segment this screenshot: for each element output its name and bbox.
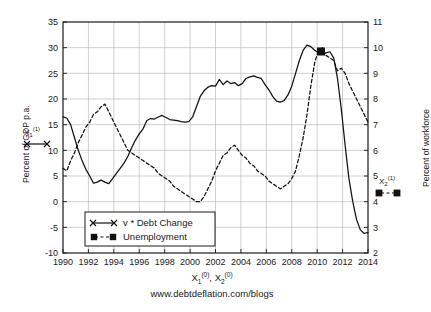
y-axis-left-tick-label: 15 (48, 120, 58, 130)
x-axis-tick-label: 1994 (104, 257, 124, 267)
x-axis-tick-label: 2012 (333, 257, 353, 267)
x-axis-tick-label: 1996 (129, 257, 149, 267)
y-axis-right-tick-label: 10 (373, 43, 383, 53)
x-axis-tick-label: 1990 (53, 257, 73, 267)
x-axis-tick-label: 2014 (358, 257, 378, 267)
y-axis-right-tick-label: 11 (373, 17, 382, 27)
y-axis-left-tick-label: 25 (48, 69, 58, 79)
x-axis-tick-label: 1992 (78, 257, 98, 267)
y-axis-right-tick-label: 9 (373, 69, 378, 79)
y-axis-right-tick-label: 6 (373, 146, 378, 156)
y-axis-left-tick-label: 30 (48, 43, 58, 53)
legend-marker-square-icon (91, 234, 97, 240)
y-axis-left-tick-label: -5 (50, 223, 58, 233)
legend-marker-square-icon (110, 234, 116, 240)
x-axis-tick-label: 2002 (205, 257, 225, 267)
y-axis-right-tick-label: 4 (373, 197, 378, 207)
y-axis-right-tick-label: 8 (373, 94, 378, 104)
x-axis-tick-label: 2008 (282, 257, 302, 267)
x-axis-tick-label: 2006 (256, 257, 276, 267)
y-axis-left-tick-label: 35 (48, 17, 58, 27)
right-series-marker-square-icon (376, 190, 383, 197)
x-axis-tick-label: 2000 (180, 257, 200, 267)
legend-label-debt-change: v * Debt Change (123, 217, 193, 228)
y-axis-right-tick-label: 3 (373, 223, 378, 233)
y-axis-left-tick-label: 20 (48, 94, 58, 104)
right-series-marker-square-icon (394, 190, 401, 197)
unemployment-highlight-marker (317, 48, 325, 56)
y-axis-left-tick-label: 0 (53, 197, 58, 207)
y-axis-right-tick-label: 7 (373, 120, 378, 130)
y-axis-right-tick-label: 5 (373, 171, 378, 181)
x-axis-tick-label: 2004 (231, 257, 251, 267)
legend-label-unemployment: Unemployment (123, 231, 187, 242)
x-axis-tick-label: 2010 (307, 257, 327, 267)
y-axis-left-tick-label: 5 (53, 171, 58, 181)
x-axis-tick-label: 1998 (155, 257, 175, 267)
